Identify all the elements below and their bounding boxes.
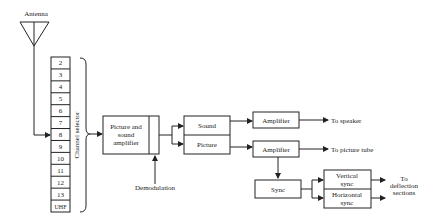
channel-6[interactable]: 6 xyxy=(59,107,63,115)
selector-bracket xyxy=(80,58,90,212)
channel-5[interactable]: 5 xyxy=(59,95,63,103)
channel-selector-label: Channel selector xyxy=(73,111,81,159)
svg-text:Sync: Sync xyxy=(271,186,285,194)
svg-text:sync: sync xyxy=(341,199,354,207)
antenna-icon xyxy=(20,22,49,46)
picture-amplifier-block: Amplifier xyxy=(253,141,299,157)
vertical-horizontal-sync-block: Vertical sync Horizontal sync xyxy=(324,170,371,208)
svg-text:amplifier: amplifier xyxy=(113,139,139,147)
channel-7[interactable]: 7 xyxy=(59,119,63,127)
antenna-label: Antenna xyxy=(24,10,49,18)
to-speaker-label: To speaker xyxy=(331,117,362,125)
channel-2[interactable]: 2 xyxy=(59,59,63,67)
svg-text:Vertical: Vertical xyxy=(336,172,358,180)
sync-block: Sync xyxy=(255,180,301,198)
svg-text:sync: sync xyxy=(341,180,354,188)
sound-label: Sound xyxy=(198,122,216,130)
svg-text:Picture and: Picture and xyxy=(110,123,142,131)
svg-text:Horizontal: Horizontal xyxy=(332,191,362,199)
channel-uhf[interactable]: UHF xyxy=(54,204,67,210)
svg-text:Amplifier: Amplifier xyxy=(262,146,290,154)
demodulation-label: Demodulation xyxy=(135,184,176,192)
sound-picture-separator: Sound Picture xyxy=(184,116,230,154)
to-picture-tube-label: To picture tube xyxy=(331,146,373,154)
svg-text:sections: sections xyxy=(393,189,416,197)
channel-11[interactable]: 11 xyxy=(57,167,64,175)
tv-receiver-block-diagram: Antenna 2345678910111213UHF Channel sele… xyxy=(0,0,438,222)
channel-12[interactable]: 12 xyxy=(57,179,65,187)
channel-13[interactable]: 13 xyxy=(57,191,65,199)
channel-3[interactable]: 3 xyxy=(59,71,63,79)
svg-text:sound: sound xyxy=(118,131,135,139)
channel-9[interactable]: 9 xyxy=(59,143,63,151)
picture-label: Picture xyxy=(197,141,217,149)
channel-4[interactable]: 4 xyxy=(59,83,63,91)
picture-sound-amplifier-block: Picture and sound amplifier xyxy=(103,116,159,154)
channel-10[interactable]: 10 xyxy=(57,155,65,163)
svg-text:Amplifier: Amplifier xyxy=(262,117,290,125)
channel-selector[interactable]: 2345678910111213UHF xyxy=(51,57,70,212)
sound-amplifier-block: Amplifier xyxy=(253,112,299,128)
channel-8[interactable]: 8 xyxy=(59,131,63,139)
